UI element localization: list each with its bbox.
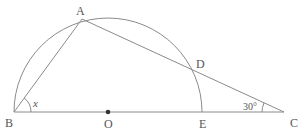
segment-ac — [82, 19, 284, 112]
label-o: O — [104, 117, 113, 131]
angle-c-arc — [262, 103, 264, 112]
semicircle-arc — [14, 18, 202, 112]
angle-label-30: 30° — [243, 101, 257, 112]
center-point-o — [106, 110, 111, 115]
label-c: C — [290, 116, 298, 130]
label-d: D — [196, 57, 205, 71]
label-b: B — [5, 116, 13, 130]
label-e: E — [199, 117, 206, 131]
label-a: A — [76, 4, 85, 18]
angle-x-arc — [24, 98, 31, 112]
geometry-diagram: A B O E C D x 30° — [0, 0, 305, 138]
angle-label-x: x — [32, 97, 38, 109]
